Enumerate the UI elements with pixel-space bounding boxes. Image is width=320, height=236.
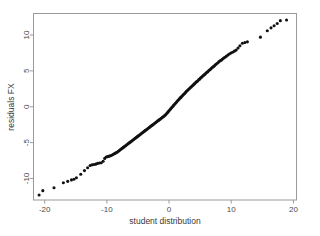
data-point (266, 29, 269, 32)
y-tick-label: -5 (22, 139, 31, 147)
data-point (269, 26, 272, 29)
x-tick-label: 20 (289, 205, 298, 214)
x-tick-label: 10 (227, 205, 236, 214)
y-tick-label: 10 (22, 30, 31, 39)
x-tick-label: -10 (101, 205, 113, 214)
qq-plot-figure: -20-1001020 -10-50510 student distributi… (0, 0, 320, 236)
data-point (238, 44, 241, 47)
y-tick-label: 5 (22, 68, 31, 73)
y-axis-title: residuals FX (6, 83, 16, 131)
x-axis-title: student distribution (129, 216, 201, 226)
x-tick-label: 0 (167, 205, 172, 214)
data-point (102, 160, 105, 163)
data-point (52, 186, 55, 189)
data-point (75, 176, 78, 179)
data-point (79, 173, 82, 176)
x-tick-label: -20 (39, 205, 51, 214)
data-point (83, 169, 86, 172)
data-point (41, 189, 44, 192)
data-point (279, 19, 282, 22)
data-point (86, 166, 89, 169)
y-tick-label: 0 (22, 104, 31, 109)
data-point (62, 181, 65, 184)
data-point (246, 40, 249, 43)
data-point (273, 24, 276, 27)
y-tick-label: -10 (22, 172, 31, 184)
data-point (66, 180, 69, 183)
data-point (259, 36, 262, 39)
data-point (276, 22, 279, 25)
data-point (285, 18, 288, 21)
qq-plot-svg: -20-1001020 -10-50510 student distributi… (0, 0, 320, 236)
data-point (38, 193, 41, 196)
